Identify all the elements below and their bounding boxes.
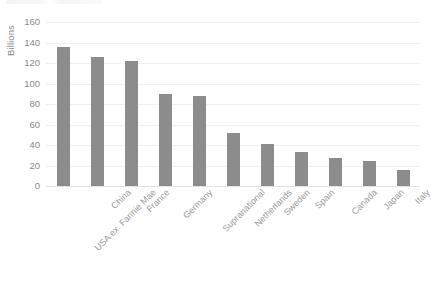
y-axis-title: Billions [5,11,16,71]
x-axis-tick-label: Germany [182,188,215,221]
y-axis-tick-label: 80 [29,99,40,109]
bar[interactable] [363,161,376,186]
y-axis-tick-label: 120 [24,58,40,68]
y-axis-tick-label: 0 [35,181,40,191]
y-axis-tick-label: 60 [29,120,40,130]
bar-slot [80,22,114,186]
bar[interactable] [125,61,138,186]
bar-slot [284,22,318,186]
bar[interactable] [329,158,342,186]
bar[interactable] [159,94,172,186]
x-axis-tick-label: Japan [382,188,406,212]
bar-slot [46,22,80,186]
bar[interactable] [91,57,104,186]
bar[interactable] [193,96,206,186]
x-axis-tick-label: Canada [350,188,379,217]
bar[interactable] [261,144,274,186]
x-axis-tick-label: Spain [314,188,337,211]
y-axis-tick-label: 140 [24,38,40,48]
x-axis-tick-label: Italy [414,188,432,206]
x-axis-labels-group: USA ex. Fannie MaeChinaFranceGermanySupr… [46,188,420,282]
plot-area: 020406080100120140160 [46,22,420,186]
y-axis-tick-label: 20 [29,161,40,171]
bar-slot [182,22,216,186]
bar-slot [148,22,182,186]
bar[interactable] [397,170,410,186]
bars-group [46,22,420,186]
bar-slot [318,22,352,186]
axis-baseline [46,186,420,187]
bar-chart-figure: Billions 020406080100120140160 USA ex. F… [0,0,435,282]
cropped-content-artifact [6,0,102,4]
bar-slot [352,22,386,186]
bar-slot [114,22,148,186]
bar-slot [216,22,250,186]
bar[interactable] [57,47,70,186]
bar-slot [386,22,420,186]
y-axis-tick-label: 160 [24,17,40,27]
bar[interactable] [227,133,240,186]
bar-slot [250,22,284,186]
bar[interactable] [295,152,308,186]
y-axis-tick-label: 100 [24,79,40,89]
y-axis-tick-label: 40 [29,140,40,150]
